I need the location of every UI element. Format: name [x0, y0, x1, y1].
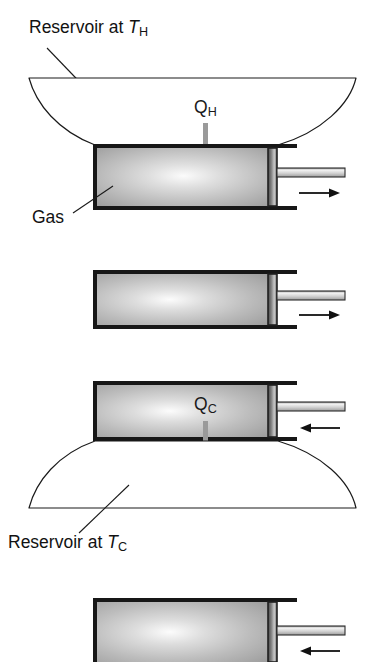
piston-rod-1 — [277, 168, 345, 177]
heat-cold-symbol: Q — [194, 394, 208, 414]
reservoir-cold-temperature-symbol: T — [107, 532, 118, 552]
piston-head-4 — [268, 602, 277, 662]
piston-motion-arrow-3 — [300, 424, 340, 433]
reservoir-hot-label-prefix: Reservoir at — [29, 17, 128, 37]
heat-hot-subscript: H — [208, 105, 217, 119]
piston-rod-4 — [277, 626, 345, 635]
piston-head-2 — [268, 274, 277, 325]
cylinder-stage-2 — [95, 272, 345, 327]
reservoir-cold-temperature-subscript: C — [118, 540, 127, 554]
heat-cold-label: QC — [194, 396, 217, 415]
heat-cold-subscript: C — [208, 402, 217, 416]
hot-reservoir-bowl — [29, 78, 356, 145]
reservoir-hot-label: Reservoir at TH — [29, 19, 148, 38]
gas-label: Gas — [32, 209, 64, 227]
reservoir-hot-temperature-symbol: T — [128, 17, 139, 37]
gas-chamber-2 — [97, 274, 270, 325]
gas-chamber-3 — [97, 385, 270, 437]
reservoir-cold-label: Reservoir at TC — [8, 534, 127, 553]
gas-chamber-1 — [97, 148, 270, 206]
cold-reservoir-bowl — [29, 441, 356, 508]
cylinder-stage-1 — [95, 146, 345, 208]
reservoir-hot-temperature-subscript: H — [139, 25, 148, 39]
carnot-cycle-figure — [0, 0, 373, 662]
reservoir-cold-label-prefix: Reservoir at — [8, 532, 107, 552]
gas-chamber-4 — [97, 602, 270, 662]
piston-rod-2 — [277, 291, 345, 300]
piston-motion-arrow-1 — [299, 189, 340, 198]
piston-motion-arrow-2 — [299, 311, 340, 320]
piston-head-3 — [268, 385, 277, 437]
heat-hot-label: QH — [194, 99, 217, 118]
piston-head-1 — [268, 148, 277, 206]
piston-rod-3 — [277, 402, 345, 411]
heat-hot-symbol: Q — [194, 97, 208, 117]
piston-motion-arrow-4 — [300, 647, 340, 656]
